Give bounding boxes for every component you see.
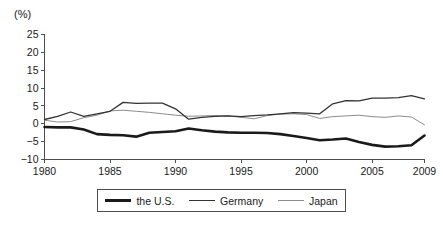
x-tick-label: 2009	[413, 165, 437, 177]
y-tick-label: 5	[33, 100, 39, 112]
y-tick-label: 20	[27, 46, 39, 58]
x-tick-label-group: 1980198519901995200020052009	[33, 165, 437, 177]
legend-swatch-line	[105, 199, 131, 202]
x-tick-label: 1995	[229, 165, 253, 177]
series-group	[45, 96, 425, 147]
legend-swatch-line	[189, 200, 215, 201]
legend-label: the U.S.	[136, 195, 174, 207]
series-line-the-u-s	[45, 127, 425, 147]
y-tick-label: 15	[27, 64, 39, 76]
line-chart: (%) −10−50510152025 19801985199019952000…	[0, 0, 443, 228]
chart-legend: the U.S.GermanyJapan	[97, 189, 346, 212]
y-tick-label: 10	[27, 82, 39, 94]
legend-item[interactable]: Germany	[189, 195, 263, 207]
y-tick-label: −5	[27, 135, 39, 147]
x-tick-label: 1985	[98, 165, 122, 177]
legend-label: Germany	[220, 195, 263, 207]
x-tick-label: 1990	[164, 165, 188, 177]
x-tick-label: 2005	[360, 165, 384, 177]
legend-item[interactable]: Japan	[278, 195, 338, 207]
legend-label: Japan	[309, 195, 338, 207]
x-tick-label: 2000	[295, 165, 319, 177]
y-tick-label: 25	[27, 28, 39, 40]
x-tick-label: 1980	[33, 165, 57, 177]
legend-swatch-line	[278, 200, 304, 201]
y-tick-label: −10	[21, 153, 39, 165]
legend-item[interactable]: the U.S.	[105, 195, 174, 207]
y-tick-label-group: −10−50510152025	[21, 28, 39, 165]
y-tick-label: 0	[33, 117, 39, 129]
